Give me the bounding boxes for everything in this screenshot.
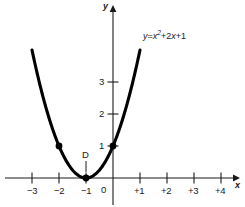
x-axis-label: x [235,181,240,190]
x-tick-label-+4: +4 [215,186,225,196]
equation-term3: +1 [176,31,186,41]
x-tick-label--1: −1 [81,186,91,196]
x-tick-label-+3: +3 [188,186,198,196]
equation-term2-coefficient: +2 [161,31,171,41]
x-tick-label--2: −2 [54,186,64,196]
vertex-label-d: D [82,150,89,160]
parabola-graph-figure: −3 −2 −1 0 +1 +2 +3 +4 1 2 3 x y D y=x2+… [0,0,245,207]
y-axis-arrow-icon [110,5,117,12]
x-tick-label-+1: +1 [134,186,144,196]
y-tick-label-3: 3 [99,77,104,87]
equation-annotation: y=x2+2x+1 [143,30,186,41]
x-tick-label-+2: +2 [161,186,171,196]
point-marker-vertex [83,175,90,182]
point-marker-0-1 [110,143,117,150]
point-marker--2-1 [56,143,63,150]
y-tick-label-2: 2 [99,109,104,119]
x-tick-label--3: −3 [27,186,37,196]
plot-canvas [0,0,245,207]
x-tick-label-0: 0 [101,185,106,195]
y-axis-label: y [103,2,108,11]
y-tick-label-1: 1 [99,141,104,151]
